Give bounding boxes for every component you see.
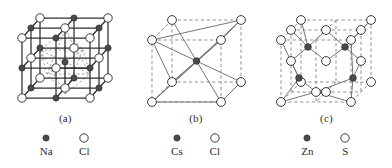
panel-caption-b: (b) (131, 112, 262, 124)
legend-label-na: Na (40, 146, 53, 157)
legend-label-cl: Cl (209, 146, 220, 157)
legend-zns: Zn S (261, 132, 392, 157)
open-circle-icon (339, 132, 351, 144)
legend-label-zn: Zn (301, 146, 314, 157)
crystal-structure-figure: (a) Na Cl (0, 0, 392, 168)
legend-entry-cl: Cl (65, 132, 103, 157)
legend-nacl: Na Cl (0, 132, 131, 157)
legend-label-s: S (342, 146, 348, 157)
filled-circle-icon (171, 132, 183, 144)
legend-cscl: Cs Cl (131, 132, 262, 157)
filled-circle-icon (40, 132, 52, 144)
panel-caption-c: (c) (261, 112, 392, 124)
filled-circle-icon (301, 132, 313, 144)
legend-entry-na: Na (27, 132, 65, 157)
panel-caption-a: (a) (0, 112, 131, 124)
legend-label-cs: Cs (171, 146, 183, 157)
legend-entry-zn: Zn (288, 132, 326, 157)
open-circle-icon (209, 132, 221, 144)
nacl-lattice-diagram (0, 0, 131, 118)
legend-entry-s: S (326, 132, 364, 157)
legend-entry-cs: Cs (158, 132, 196, 157)
open-circle-icon (78, 132, 90, 144)
panel-zns: (c) Zn S (261, 0, 392, 168)
zns-lattice-diagram (261, 0, 392, 118)
panel-nacl: (a) Na Cl (0, 0, 131, 168)
cscl-lattice-diagram (131, 0, 262, 118)
panel-cscl: (b) Cs Cl (131, 0, 262, 168)
legend-entry-cl: Cl (196, 132, 234, 157)
legend-label-cl: Cl (79, 146, 90, 157)
cscl-cation-atoms (193, 58, 200, 65)
zns-anion-atoms (277, 16, 376, 107)
